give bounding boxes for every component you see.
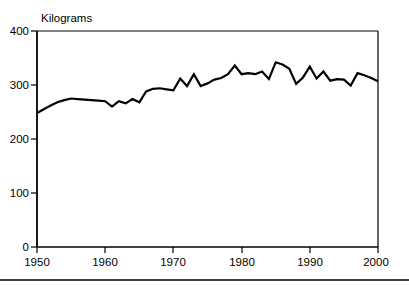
x-axis-ticks — [37, 247, 378, 253]
y-tick-label-200: 200 — [10, 133, 29, 145]
y-axis-unit-label: Kilograms — [41, 12, 92, 24]
x-axis-tick-labels: 1950 1960 1970 1980 1990 2000 — [24, 256, 389, 268]
x-tick-label-1950: 1950 — [24, 256, 50, 268]
x-tick-label-2000: 2000 — [363, 256, 389, 268]
x-tick-label-1990: 1990 — [297, 256, 323, 268]
plot-frame — [37, 31, 378, 247]
data-series-line — [37, 62, 378, 113]
y-tick-label-300: 300 — [10, 79, 29, 91]
x-tick-label-1980: 1980 — [229, 256, 255, 268]
x-tick-label-1960: 1960 — [92, 256, 118, 268]
x-tick-label-1970: 1970 — [160, 256, 186, 268]
chart-figure: 0 100 200 300 400 1950 1960 1970 1980 19… — [0, 0, 409, 289]
line-chart-canvas: 0 100 200 300 400 1950 1960 1970 1980 19… — [0, 0, 409, 289]
y-tick-label-0: 0 — [23, 241, 29, 253]
y-tick-label-400: 400 — [10, 25, 29, 37]
y-tick-label-100: 100 — [10, 187, 29, 199]
y-axis-tick-labels: 0 100 200 300 400 — [10, 25, 29, 253]
